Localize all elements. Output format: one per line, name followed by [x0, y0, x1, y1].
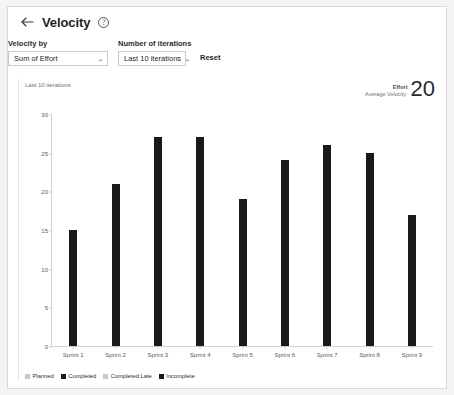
y-axis-tick-mark: [49, 115, 52, 116]
summary-caption-label: Average Velocity:: [365, 91, 407, 98]
velocity-page: Velocity ? Velocity by Sum of Effort ⌄ N…: [7, 6, 447, 389]
chart-legend: PlannedCompletedCompleted LateIncomplete: [25, 373, 202, 379]
y-axis-tick-mark: [49, 347, 52, 348]
y-axis-tick-label: 20: [41, 189, 48, 195]
x-axis-tick-label: Sprint 5: [232, 352, 253, 358]
x-axis-tick-mark: [369, 346, 370, 349]
x-axis-tick-mark: [115, 346, 116, 349]
x-axis-tick-mark: [200, 346, 201, 349]
x-axis-tick-mark: [411, 346, 412, 349]
legend-swatch-icon: [159, 374, 164, 379]
velocity-by-field: Velocity by Sum of Effort ⌄: [8, 39, 108, 66]
y-axis-tick-label: 0: [45, 344, 48, 350]
velocity-by-label: Velocity by: [8, 39, 108, 48]
x-axis-tick-label: Sprint 3: [147, 352, 168, 358]
y-axis-tick-mark: [49, 153, 52, 154]
x-axis-tick-mark: [327, 346, 328, 349]
chart-bar[interactable]: [323, 145, 331, 346]
number-of-iterations-value: Last 10 iterations: [124, 54, 181, 63]
legend-item[interactable]: Incomplete: [159, 373, 195, 379]
x-axis-tick-mark: [284, 346, 285, 349]
velocity-by-value: Sum of Effort: [14, 54, 58, 63]
chart-bar[interactable]: [408, 215, 416, 346]
chart-subtitle: Last 10 iterations: [25, 82, 71, 88]
chart-bar[interactable]: [112, 184, 120, 346]
reset-button[interactable]: Reset: [200, 53, 220, 62]
legend-item[interactable]: Completed Late: [103, 373, 151, 379]
x-axis-tick-label: Sprint 2: [105, 352, 126, 358]
y-axis-tick-label: 15: [41, 228, 48, 234]
legend-item[interactable]: Planned: [25, 373, 54, 379]
legend-label: Incomplete: [166, 373, 194, 379]
chevron-down-icon: ⌄: [97, 55, 104, 62]
x-axis-tick-label: Sprint 9: [401, 352, 422, 358]
chart-bar[interactable]: [239, 199, 247, 346]
x-axis-tick-mark: [73, 346, 74, 349]
x-axis-tick-mark: [242, 346, 243, 349]
x-axis-tick-label: Sprint 6: [274, 352, 295, 358]
legend-swatch-icon: [103, 374, 108, 379]
average-velocity-value: 20: [411, 79, 435, 99]
chart-bar[interactable]: [69, 230, 77, 346]
legend-item[interactable]: Completed: [61, 373, 97, 379]
help-circle-icon[interactable]: ?: [98, 17, 109, 28]
chart-bar[interactable]: [366, 153, 374, 346]
y-axis-tick-label: 10: [41, 267, 48, 273]
summary-metric-label: Effort: [365, 84, 407, 91]
page-header: Velocity ?: [8, 7, 446, 37]
y-axis-tick-mark: [49, 231, 52, 232]
y-axis-tick-label: 5: [45, 305, 48, 311]
filter-bar: Velocity by Sum of Effort ⌄ Number of it…: [8, 39, 446, 75]
chart-bar[interactable]: [196, 137, 204, 346]
arrow-left-icon[interactable]: [20, 15, 34, 29]
x-axis-tick-label: Sprint 1: [63, 352, 84, 358]
y-axis-tick-label: 25: [41, 151, 48, 157]
legend-label: Completed Late: [111, 373, 152, 379]
number-of-iterations-field: Number of iterations Last 10 iterations …: [118, 39, 191, 66]
legend-swatch-icon: [25, 374, 30, 379]
velocity-by-dropdown[interactable]: Sum of Effort ⌄: [8, 51, 108, 66]
y-axis-tick-label: 30: [41, 112, 48, 118]
legend-swatch-icon: [61, 374, 66, 379]
x-axis-tick-label: Sprint 4: [190, 352, 211, 358]
chevron-down-icon: ⌄: [184, 55, 191, 62]
y-axis-tick-mark: [49, 192, 52, 193]
x-axis-tick-label: Sprint 8: [359, 352, 380, 358]
chart-plot: 051015202530Sprint 1Sprint 2Sprint 3Spri…: [19, 111, 439, 361]
legend-label: Completed: [68, 373, 96, 379]
summary-labels: Effort Average Velocity:: [365, 84, 407, 99]
y-axis-tick-mark: [49, 308, 52, 309]
plot-area: 051015202530Sprint 1Sprint 2Sprint 3Spri…: [51, 115, 433, 347]
chart-bar[interactable]: [281, 160, 289, 346]
x-axis-tick-label: Sprint 7: [317, 352, 338, 358]
number-of-iterations-label: Number of iterations: [118, 39, 191, 48]
number-of-iterations-dropdown[interactable]: Last 10 iterations ⌄: [118, 51, 186, 66]
velocity-chart-card: Last 10 iterations Effort Average Veloci…: [18, 79, 438, 381]
page-title: Velocity: [42, 15, 90, 30]
x-axis-tick-mark: [157, 346, 158, 349]
average-velocity-summary: Effort Average Velocity: 20: [365, 79, 435, 99]
legend-label: Planned: [33, 373, 54, 379]
y-axis-tick-mark: [49, 269, 52, 270]
chart-bar[interactable]: [154, 137, 162, 346]
